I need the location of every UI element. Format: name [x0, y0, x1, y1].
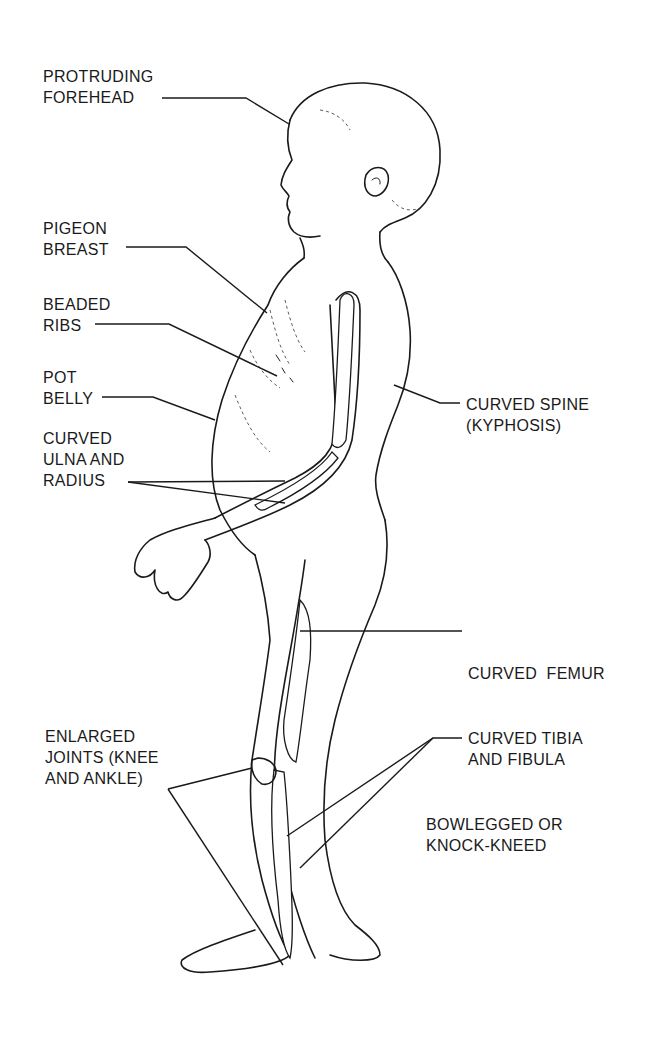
- label-pot-belly: POT BELLY: [43, 367, 93, 409]
- label-enlarged-joints: ENLARGED JOINTS (KNEE AND ANKLE): [45, 726, 159, 789]
- head-drawing: [281, 83, 440, 262]
- torso-drawing: [212, 258, 410, 555]
- leader-ulna: [128, 481, 285, 482]
- leader-pot-belly: [102, 397, 215, 420]
- child-figure-illustration: [0, 0, 659, 1045]
- label-beaded-ribs: BEADED RIBS: [43, 294, 111, 336]
- label-curved-tibia-fibula: CURVED TIBIA AND FIBULA: [468, 728, 583, 770]
- leader-forehead: [162, 98, 289, 124]
- leader-fibula: [300, 738, 433, 868]
- leader-knee: [168, 768, 252, 789]
- arm-drawing: [135, 292, 360, 600]
- leader-pigeon-breast: [126, 247, 267, 313]
- label-curved-spine: CURVED SPINE (KYPHOSIS): [466, 394, 589, 436]
- leader-beaded-ribs: [95, 324, 277, 376]
- rickets-diagram: PROTRUDING FOREHEAD PIGEON BREAST BEADED…: [0, 0, 659, 1045]
- leader-radius: [128, 482, 285, 503]
- legs-drawing: [181, 520, 387, 972]
- label-protruding-forehead: PROTRUDING FOREHEAD: [43, 66, 154, 108]
- label-curved-femur: CURVED FEMUR: [468, 621, 605, 726]
- leader-ankle: [168, 789, 283, 965]
- label-bowlegged-knock-kneed: BOWLEGGED OR KNOCK-KNEED: [426, 814, 563, 856]
- label-curved-ulna-radius: CURVED ULNA AND RADIUS: [43, 428, 125, 491]
- label-pigeon-breast: PIGEON BREAST: [43, 218, 109, 260]
